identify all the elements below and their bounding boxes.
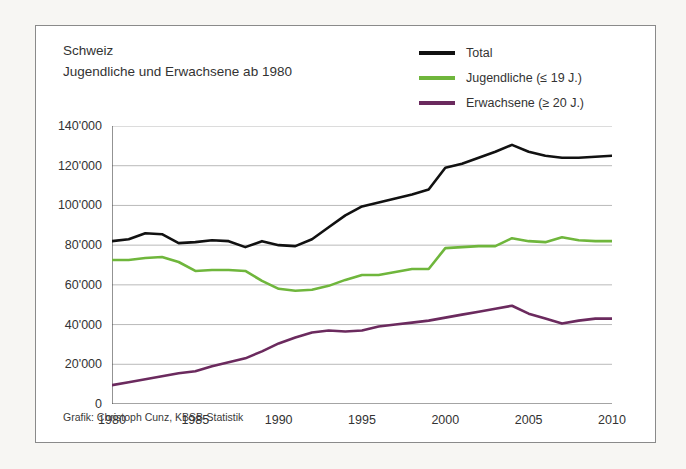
series-line	[112, 306, 612, 385]
x-axis-label: 1990	[265, 413, 293, 427]
plot-canvas	[112, 126, 612, 404]
legend-swatch-total	[419, 51, 455, 55]
y-axis-label: 60'000	[65, 278, 102, 292]
y-axis-label: 80'000	[65, 238, 102, 252]
y-axis-label: 0	[95, 397, 102, 411]
plot-area: 020'00040'00060'00080'000100'000120'0001…	[112, 126, 612, 404]
legend-label-erwachsene: Erwachsene (≥ 20 J.)	[466, 96, 584, 110]
x-axis-label: 2005	[515, 413, 543, 427]
legend-label-jugendliche: Jugendliche (≤ 19 J.)	[466, 71, 582, 85]
x-axis-label: 2010	[598, 413, 626, 427]
y-axis-label: 40'000	[65, 318, 102, 332]
legend-swatch-erwachsene	[419, 101, 455, 105]
chart-title-line1: Schweiz	[63, 40, 292, 61]
legend-swatch-jugendliche	[419, 76, 455, 80]
y-axis-label: 100'000	[58, 198, 102, 212]
legend-item-jugendliche: Jugendliche (≤ 19 J.)	[419, 65, 584, 90]
legend-label-total: Total	[466, 46, 492, 60]
legend-item-total: Total	[419, 40, 584, 65]
y-axis-label: 120'000	[58, 159, 102, 173]
chart-title-line2: Jugendliche und Erwachsene ab 1980	[63, 61, 292, 82]
series-line	[112, 145, 612, 247]
chart-legend: Total Jugendliche (≤ 19 J.) Erwachsene (…	[419, 40, 584, 115]
y-axis-label: 140'000	[58, 119, 102, 133]
chart-credit: Grafik: Christoph Cunz, KBSB-Statistik	[63, 411, 243, 423]
y-axis-label: 20'000	[65, 357, 102, 371]
x-axis-label: 1995	[348, 413, 376, 427]
x-axis-label: 2000	[431, 413, 459, 427]
legend-item-erwachsene: Erwachsene (≥ 20 J.)	[419, 90, 584, 115]
chart-title: Schweiz Jugendliche und Erwachsene ab 19…	[63, 40, 292, 82]
chart-figure: Schweiz Jugendliche und Erwachsene ab 19…	[35, 25, 656, 443]
